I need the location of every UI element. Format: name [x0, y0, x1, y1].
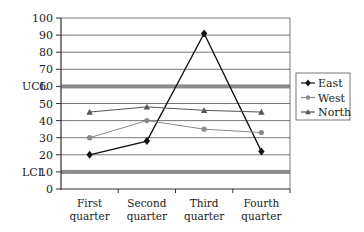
data-series [86, 29, 264, 158]
x-category-label: Firstquarter [70, 197, 111, 222]
series-north [86, 104, 264, 115]
y-tick-label: 80 [39, 46, 53, 59]
legend-label: East [318, 77, 343, 90]
circle-marker-icon [306, 95, 310, 99]
y-tick-label: 50 [39, 98, 53, 111]
legend-label: West [318, 92, 346, 105]
series-west [87, 118, 264, 140]
series-line [90, 107, 262, 112]
legend-label: North [318, 106, 351, 119]
series-east [86, 29, 264, 158]
circle-marker-icon [144, 118, 149, 123]
control-limit-bands: UCLLCL [22, 80, 290, 178]
x-category-label: Secondquarter [127, 197, 168, 222]
diamond-marker-icon [201, 29, 207, 37]
x-axis-categories: FirstquarterSecondquarterThirdquarterFou… [70, 189, 290, 222]
y-tick-label: 40 [39, 115, 53, 128]
lcl-band [61, 170, 290, 174]
series-line [90, 33, 262, 154]
y-tick-label: 0 [46, 183, 53, 196]
y-tick-label: 30 [39, 132, 53, 145]
y-tick-label: 100 [32, 12, 53, 25]
y-tick-label: 10 [39, 166, 53, 179]
circle-marker-icon [87, 135, 92, 140]
y-tick-label: 70 [39, 63, 53, 76]
diamond-marker-icon [258, 147, 264, 155]
diamond-marker-icon [86, 151, 92, 159]
control-chart: UCLLCL 0102030405060708090100 Firstquart… [0, 0, 364, 232]
y-tick-label: 60 [39, 80, 53, 93]
diamond-marker-icon [144, 137, 150, 145]
x-category-label: Thirdquarter [184, 197, 225, 222]
y-tick-label: 90 [39, 29, 53, 42]
x-category-label: Fourthquarter [241, 197, 282, 222]
circle-marker-icon [202, 127, 207, 132]
axes [61, 18, 290, 190]
series-line [90, 121, 262, 138]
circle-marker-icon [259, 130, 264, 135]
gridlines [61, 18, 290, 172]
y-tick-label: 20 [39, 149, 53, 162]
legend: EastWestNorth [296, 73, 351, 120]
